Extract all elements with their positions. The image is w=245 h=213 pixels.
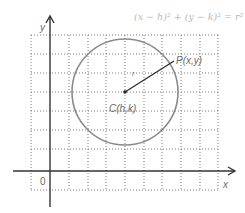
y-axis-label: y (39, 22, 46, 33)
center-label: C(h,k) (109, 103, 136, 114)
circle-equation-diagram: (x − h)² + (y − k)² = r² y x 0 r P (0, 0, 245, 213)
equation-text: (x − h)² + (y − k)² = r² (134, 11, 244, 22)
origin-label: 0 (40, 176, 46, 187)
radius-label: r (132, 70, 135, 77)
point-label: P(x,y) (176, 55, 202, 66)
x-axis (13, 167, 235, 175)
center-point (123, 90, 127, 94)
x-axis-label: x (222, 179, 229, 190)
